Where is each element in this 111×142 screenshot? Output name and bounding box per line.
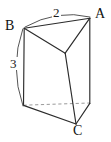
edge-vertical-front <box>65 53 76 124</box>
edge-vertical-left <box>24 28 25 105</box>
hidden-edge-bottom-back <box>24 103 90 105</box>
dimension-label-vertical-edge: 3 <box>9 57 18 70</box>
vertex-label-c: C <box>73 124 82 138</box>
vertex-label-b: B <box>5 19 14 33</box>
vertex-label-a: A <box>95 7 105 21</box>
dimension-label-top-edge: 2 <box>52 6 61 19</box>
edge-top-front-to-top-back-right <box>65 18 90 53</box>
edge-top-back-left-to-top-front <box>24 28 65 53</box>
edge-bottom-back-left-to-bottom-front <box>24 105 77 124</box>
prism-figure: A B C 2 3 <box>0 0 111 142</box>
prism-drawing <box>0 0 111 142</box>
edge-bottom-front-to-bottom-back-right <box>76 103 90 124</box>
